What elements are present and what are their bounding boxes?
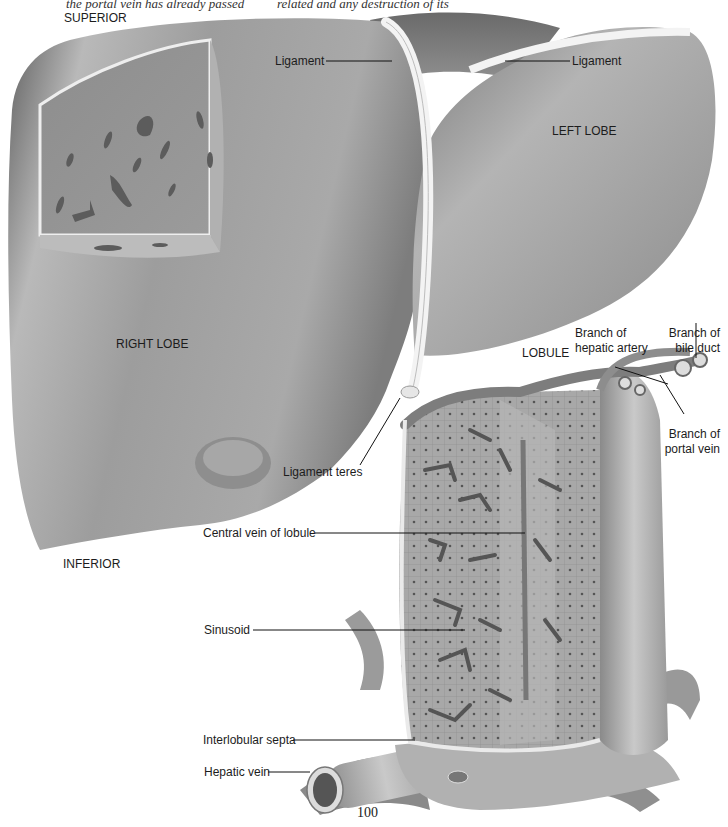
page-number: 100: [357, 805, 378, 821]
right-lobe-label: RIGHT LOBE: [116, 337, 188, 352]
lobule-title: LOBULE: [522, 346, 569, 361]
bile-duct-label: Branch of bile duct: [669, 326, 720, 356]
portal-vein-label: Branch of portal vein: [665, 427, 720, 457]
ligament-teres-label: Ligament teres: [283, 465, 362, 480]
liver-illustration: [0, 0, 728, 827]
hepatic-artery-label: Branch of hepatic artery: [575, 326, 648, 356]
ligament-label-right: Ligament: [572, 54, 621, 69]
hepatic-vein-label: Hepatic vein: [204, 765, 270, 780]
sinusoid-label: Sinusoid: [204, 623, 250, 638]
left-lobe-label: LEFT LOBE: [552, 124, 616, 139]
interlobular-septa-label: Interlobular septa: [203, 733, 296, 748]
left-lobe-shape: [413, 27, 716, 356]
orientation-superior: SUPERIOR: [64, 11, 127, 26]
ligament-label-left: Ligament: [275, 54, 324, 69]
central-vein-label: Central vein of lobule: [203, 526, 316, 541]
orientation-inferior: INFERIOR: [63, 557, 120, 572]
